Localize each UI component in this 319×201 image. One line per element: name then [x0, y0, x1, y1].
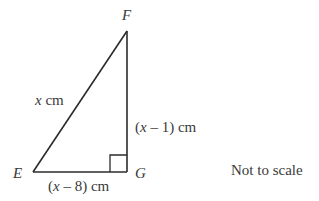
side-fg-rest: – 1): [147, 119, 175, 135]
side-label-ef: x cm: [35, 93, 64, 108]
side-eg-rest: – 8): [60, 178, 88, 194]
not-to-scale-note: Not to scale: [231, 163, 303, 178]
side-fg-unit: cm: [174, 119, 196, 135]
side-ef-var: x: [35, 92, 42, 108]
side-eg-unit: cm: [87, 178, 109, 194]
side-ef-unit: cm: [42, 92, 64, 108]
vertex-label-e: E: [13, 166, 22, 181]
vertex-label-g: G: [135, 166, 146, 181]
side-label-fg: (x – 1) cm: [135, 120, 196, 135]
right-angle-marker: [110, 155, 127, 172]
side-fg-var: x: [140, 119, 147, 135]
vertex-label-f: F: [122, 8, 131, 23]
side-eg-var: x: [53, 178, 60, 194]
side-label-eg: (x – 8) cm: [48, 179, 109, 194]
